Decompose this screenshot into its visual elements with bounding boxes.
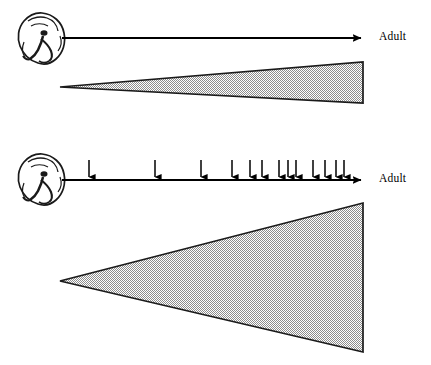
panel-bottom (18, 154, 363, 352)
phenotypic-variation-wedge (60, 203, 363, 352)
phenotypic-variation-wedge (60, 62, 363, 103)
adult-label-bottom: Adult (379, 173, 406, 185)
figure-canvas: Adult Adult (0, 0, 431, 365)
diagram-svg (0, 0, 431, 365)
panel-top (18, 13, 363, 103)
embryo-icon (18, 13, 64, 64)
embryo-icon (18, 154, 64, 205)
perturbation-arrows (89, 160, 344, 177)
adult-label-top: Adult (379, 31, 406, 43)
